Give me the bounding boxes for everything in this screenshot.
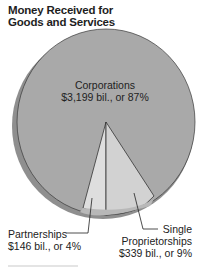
label-corporations: Corporations $3,199 bil., or 87% [0,79,203,103]
label-single-proprietorships: Single Proprietorships $339 bil., or 9% [119,223,192,259]
label-partnerships: Partnerships $146 bil., or 4% [8,228,81,252]
